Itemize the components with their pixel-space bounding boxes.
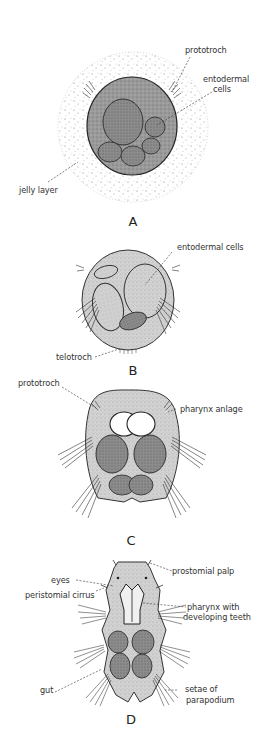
label-a-prototroch: prototroch xyxy=(185,46,227,55)
panel-letter-c: C xyxy=(121,533,141,548)
label-a-jelly-layer: jelly layer xyxy=(19,186,58,195)
label-c-pharynx-anlage: pharynx anlage xyxy=(180,405,243,414)
label-d-setae-line1: setae of xyxy=(185,685,217,694)
label-d-pharynx-line1: pharynx with xyxy=(187,603,239,612)
label-b-telotroch: telotroch xyxy=(56,353,92,362)
label-d-prostomial-palp: prostomial palp xyxy=(172,567,234,576)
panel-d-drawing xyxy=(55,560,190,706)
larval-development-figure: prototroch entodermal cells jelly layer … xyxy=(0,0,261,740)
label-a-entodermal-cells-line1: entodermal xyxy=(203,75,249,84)
label-d-peristomial-cirrus: peristomial cirrus xyxy=(25,591,95,600)
panel-letter-d: D xyxy=(121,712,141,727)
panel-letter-a: A xyxy=(123,214,143,229)
panel-letter-b: B xyxy=(123,363,143,378)
label-d-gut: gut xyxy=(40,686,53,695)
label-d-pharynx-line2: developing teeth xyxy=(183,613,251,622)
label-a-entodermal-cells-line2: cells xyxy=(213,85,231,94)
label-d-eyes: eyes xyxy=(51,576,70,585)
panel-b-drawing xyxy=(76,250,180,357)
label-c-prototroch: prototroch xyxy=(18,379,60,388)
label-d-setae-line2: parapodium xyxy=(186,696,234,705)
label-b-entodermal-cells: entodermal cells xyxy=(177,243,244,252)
panel-a-drawing xyxy=(48,52,212,202)
